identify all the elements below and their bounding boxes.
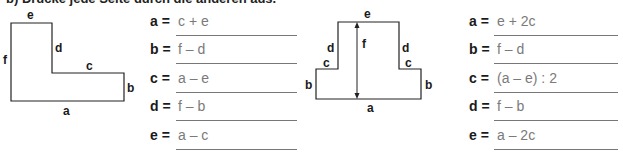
variable-label: a = [469, 13, 489, 29]
variable-label: e = [469, 127, 489, 143]
variable-label: c = [469, 70, 489, 86]
equation-row-e: e = a – c [150, 122, 298, 150]
arrow-down-icon [355, 93, 360, 99]
equation-row-a: a = c + e [150, 8, 298, 36]
answer-line [494, 120, 618, 121]
label-f: f [362, 37, 367, 51]
answer-field[interactable]: c + e [178, 13, 209, 29]
equation-row-c: c = a – e [150, 65, 298, 93]
answer-field[interactable]: a – c [178, 127, 208, 143]
label-b: b [127, 81, 134, 95]
label-c: c [86, 59, 93, 73]
answer-field[interactable]: f – b [497, 98, 524, 114]
label-c-right: c [405, 56, 412, 70]
label-a: a [367, 101, 374, 115]
label-d-left: d [327, 41, 334, 55]
equation-row-e: e = a – 2c [469, 122, 619, 150]
answer-field[interactable]: a – 2c [497, 127, 535, 143]
variable-label: d = [150, 98, 171, 114]
label-e: e [27, 8, 34, 22]
variable-label: d = [469, 98, 490, 114]
label-e: e [364, 7, 371, 21]
equation-row-c: c = (a – e) : 2 [469, 65, 619, 93]
label-f: f [3, 53, 8, 67]
stepped-shape-figure: e f d d c c b b a [305, 7, 432, 115]
answer-field[interactable]: f – d [178, 41, 205, 57]
label-b-right: b [425, 78, 432, 92]
equation-row-a: a = e + 2c [469, 8, 619, 36]
variable-label: c = [150, 70, 170, 86]
label-d: d [55, 41, 62, 55]
answer-field[interactable]: a – e [178, 70, 209, 86]
arrow-up-icon [355, 22, 360, 28]
answer-line [176, 149, 297, 150]
equation-row-d: d = f – b [150, 93, 298, 121]
variable-label: b = [150, 41, 171, 57]
label-b-left: b [305, 78, 312, 92]
label-a: a [63, 104, 70, 118]
variable-label: b = [469, 41, 490, 57]
variable-label: a = [150, 13, 170, 29]
answer-line [494, 63, 618, 64]
answer-line [494, 149, 618, 150]
variable-label: e = [150, 127, 170, 143]
answer-line [176, 63, 297, 64]
l-shape-figure: e f d c b a [3, 8, 134, 118]
equation-row-d: d = f – b [469, 93, 619, 121]
label-c-left: c [323, 56, 330, 70]
answer-field[interactable]: f – b [178, 98, 205, 114]
equation-row-b: b = f – d [469, 36, 619, 64]
answer-line [176, 120, 297, 121]
answer-field[interactable]: e + 2c [497, 13, 536, 29]
label-d-right: d [402, 41, 409, 55]
answer-field[interactable]: f – d [497, 41, 524, 57]
equation-row-b: b = f – d [150, 36, 298, 64]
answer-field[interactable]: (a – e) : 2 [497, 70, 557, 86]
